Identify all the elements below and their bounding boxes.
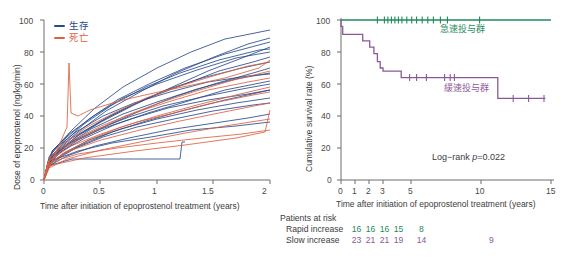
par-slow-3: 19: [393, 235, 404, 246]
left-plot-svg: [0, 0, 292, 200]
right-panel: Cumulative survival rate (%) 0 20 40 60 …: [292, 0, 569, 230]
par-slow-2: 21: [379, 235, 390, 246]
par-slow-0: 23: [351, 235, 362, 246]
par-slow-10: 9: [486, 235, 497, 246]
par-rapid-5: 8: [416, 224, 427, 235]
logrank-statistic: Log−rank p=0.022: [432, 152, 505, 162]
par-rapid-2: 16: [379, 224, 390, 235]
left-panel: Dose of epoprostenol (ng/kg/min) 0 20 40…: [0, 0, 292, 230]
row-label-rapid-increase: Rapid increase: [286, 224, 343, 235]
left-x-axis-title: Time after initiation of epoprostenol tr…: [40, 202, 240, 211]
right-x-axis-title: Time after initiation of epoprostenol tr…: [336, 200, 536, 209]
figure-root: Dose of epoprostenol (ng/kg/min) 0 20 40…: [0, 0, 569, 259]
par-slow-5: 14: [416, 235, 427, 246]
right-plot-svg: [292, 0, 569, 200]
survival-line-swatch-icon: [54, 25, 65, 27]
par-rapid-3: 15: [393, 224, 404, 235]
patients-at-risk-row-rapid: Rapid increase 16 16 16 15 8: [280, 224, 569, 235]
legend-label-death: 死亡: [69, 33, 89, 43]
logrank-p-value: =0.022: [477, 152, 505, 162]
curve-label-rapid-group: 急速投与群: [440, 25, 485, 34]
par-slow-1: 21: [365, 235, 376, 246]
row-label-slow-increase: Slow increase: [286, 235, 340, 246]
patients-at-risk-row-slow: Slow increase 23 21 21 19 14 9: [280, 235, 569, 246]
km-curve-rapid: [341, 17, 551, 24]
death-line-swatch-icon: [54, 37, 65, 39]
legend-row-survival: 生存: [54, 20, 89, 32]
curve-label-slow-group: 緩速投与群: [444, 84, 489, 93]
par-rapid-0: 16: [351, 224, 362, 235]
patients-at-risk-table: Patients at risk Rapid increase 16 16 16…: [280, 213, 569, 246]
legend-row-death: 死亡: [54, 32, 89, 44]
legend-label-survival: 生存: [69, 21, 89, 31]
logrank-prefix: Log−rank: [432, 152, 472, 162]
left-legend: 生存 死亡: [54, 20, 89, 44]
patients-at-risk-title: Patients at risk: [280, 213, 569, 224]
par-rapid-1: 16: [365, 224, 376, 235]
left-series-survival: [44, 30, 270, 180]
